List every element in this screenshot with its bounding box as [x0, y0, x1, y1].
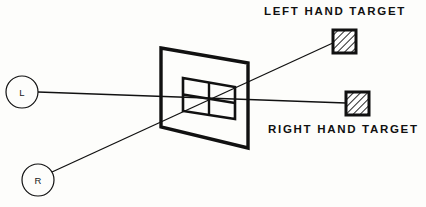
left-hand-target-marker	[333, 30, 356, 53]
right-eye-sightline	[52, 42, 335, 172]
viewing-screen	[161, 48, 248, 148]
right-eye-label: R	[34, 175, 41, 186]
left-eye-marker: L	[6, 76, 38, 108]
right-hand-target-marker	[346, 92, 369, 115]
left-hand-target-label: LEFT HAND TARGET	[264, 5, 406, 17]
binocular-viewing-diagram: L R LEFT HAND TARGET RIGHT HAND TARGET	[0, 0, 426, 207]
left-eye-sightline	[38, 92, 346, 103]
right-hand-target-square	[346, 92, 369, 115]
right-eye-marker: R	[22, 164, 54, 196]
diagram-canvas: L R LEFT HAND TARGET RIGHT HAND TARGET	[0, 0, 426, 207]
left-eye-label: L	[19, 87, 25, 98]
left-hand-target-square	[333, 30, 356, 53]
sight-line-group	[38, 42, 346, 172]
right-hand-target-label: RIGHT HAND TARGET	[268, 123, 419, 135]
